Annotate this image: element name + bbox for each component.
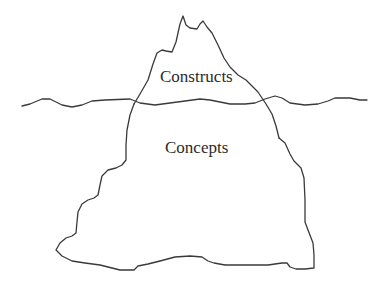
- constructs-label: Constructs: [160, 68, 233, 85]
- concepts-label: Concepts: [165, 139, 228, 156]
- iceberg-body-outline: [56, 104, 314, 270]
- waterline: [22, 96, 367, 107]
- iceberg-diagram: Constructs Concepts: [0, 0, 382, 282]
